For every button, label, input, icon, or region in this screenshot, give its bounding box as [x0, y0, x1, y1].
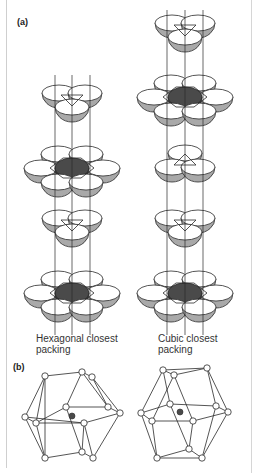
central-atom	[69, 413, 75, 419]
neighbor-atom	[42, 455, 48, 461]
neighbor-atom	[33, 420, 39, 426]
central-atom	[177, 409, 183, 415]
sphere	[182, 299, 216, 322]
neighbor-atom	[171, 372, 177, 378]
neighbor-atom	[225, 409, 231, 415]
neighbor-atom	[42, 373, 48, 379]
neighbor-atom	[199, 455, 205, 461]
sphere	[69, 174, 103, 197]
neighbor-atom	[105, 404, 111, 410]
neighbor-atom	[149, 418, 155, 424]
sphere	[182, 103, 216, 126]
neighbor-atom	[117, 410, 123, 416]
neighbor-atom	[81, 420, 87, 426]
ccp-coordination	[138, 365, 231, 461]
neighbor-atom	[154, 455, 160, 461]
neighbor-atom	[89, 374, 95, 380]
hexagonal-stack	[24, 75, 120, 335]
hcp-coordination	[22, 369, 123, 461]
neighbor-atom	[79, 449, 85, 455]
neighbor-atom	[22, 414, 28, 420]
neighbor-atom	[63, 404, 69, 410]
neighbor-atom	[138, 410, 144, 416]
neighbor-atom	[213, 403, 219, 409]
neighbor-atom	[167, 401, 173, 407]
sphere	[181, 159, 215, 182]
neighbor-atom	[90, 455, 96, 461]
cubic-stack	[137, 10, 233, 335]
neighbor-atom	[190, 418, 196, 424]
neighbor-atom	[160, 367, 166, 373]
packing-diagram	[0, 0, 253, 473]
neighbor-atom	[204, 365, 210, 371]
sphere	[69, 299, 103, 322]
neighbor-atom	[186, 446, 192, 452]
neighbor-atom	[79, 369, 85, 375]
